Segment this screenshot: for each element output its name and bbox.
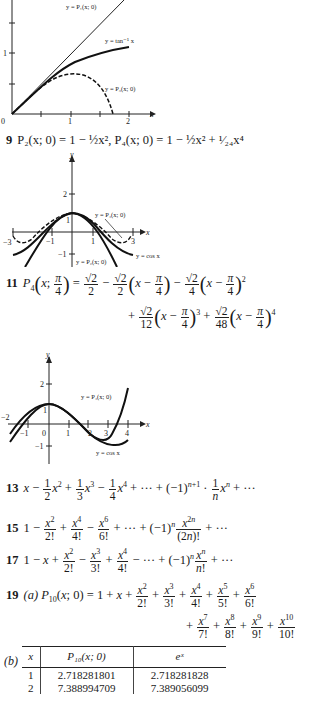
table-row: 2 7.388994709 7.389056099: [22, 681, 226, 694]
header-p10: P₁₀(x; 0): [40, 647, 133, 668]
x-axis-label: x: [145, 228, 150, 237]
header-x: x: [22, 647, 40, 668]
table-row: 1 2.718281801 2.718281828: [22, 668, 226, 682]
y-axis-label: y: [69, 152, 74, 159]
label-arctan: y = tan⁻¹ x: [105, 37, 135, 44]
tick-y-1: 1: [3, 49, 7, 58]
problem-17: 171 − x + x22! − x33! + x44! − ··· + (−1…: [6, 548, 233, 574]
problem-13: 13x − 12x2 + 13x3 − 14x4 + ··· + (−1)n+1…: [6, 477, 256, 502]
problem-number: 15: [6, 521, 19, 535]
problem-number: 9: [6, 133, 12, 147]
tick-x-1: 1: [66, 429, 70, 438]
tick-x-minus3: −3: [3, 238, 12, 247]
tick-x-3: 3: [104, 429, 108, 438]
problem-number: 11: [6, 276, 18, 290]
label-cos: y = cos x: [96, 449, 120, 456]
tick-x-1: 1: [91, 237, 95, 246]
label-p2: y = P₂(x; 0): [76, 258, 106, 266]
tick-x-3: 3: [131, 237, 135, 246]
part-b-label: (b): [4, 654, 18, 669]
tick-x-minus1: −1: [20, 429, 29, 438]
label-cos: y = cos x: [136, 252, 160, 259]
header-ex: eˣ: [133, 647, 226, 668]
label-p1: y = P₁(x; 0): [66, 3, 96, 11]
x-axis-label: x: [149, 110, 154, 119]
problem-9-answer: P₂(x; 0) = 1 − ½x², P₄(x; 0) = 1 − ½x² +…: [17, 133, 244, 147]
tick-x-minus1: −1: [46, 237, 55, 246]
problem-11-cont: + √212(x − π4)3 + √248(x − π4)4: [128, 305, 276, 330]
problem-9: 9P₂(x; 0) = 1 − ½x², P₄(x; 0) = 1 − ½x² …: [6, 133, 244, 148]
label-p4: y = P₄(x; 0): [81, 393, 111, 401]
tick-x-4: 4: [125, 429, 129, 438]
tick-y-minus1: −1: [58, 250, 67, 259]
problem-15: 151 − x22! + x44! − x66! + ··· + (−1)nx2…: [6, 516, 228, 542]
tick-y-1: 1: [43, 406, 47, 415]
problem-19a: 19(a) P10(x; 0) = 1 + x + x22! + x33! + …: [6, 583, 257, 609]
tick-y-minus1: −1: [35, 442, 44, 451]
tick-y-1: 1: [66, 216, 70, 225]
tick-x-1: 1: [68, 117, 72, 125]
tick-y-2: 2: [40, 380, 44, 389]
part-a-label: (a): [24, 588, 39, 602]
tick-x-2: 2: [88, 429, 92, 438]
tick-y-2: 2: [63, 190, 67, 199]
comparison-table: x P₁₀(x; 0) eˣ 1 2.718281801 2.718281828…: [22, 646, 226, 694]
problem-11: 11P4(x; π4) = √22 − √22(x − π4) − √24(x …: [6, 272, 246, 297]
x-axis-label: x: [145, 420, 150, 429]
problem-number: 13: [6, 481, 19, 495]
y-axis-label: y: [45, 352, 50, 359]
graph-cos-taylor-9: 2 1 −1 −3 −1 1 3 x y y = P₄(x; 0) y = co…: [0, 152, 170, 267]
tick-x-0: 0: [42, 429, 46, 438]
label-p4: y = P₄(x; 0): [95, 211, 125, 219]
problem-number: 19: [6, 588, 19, 602]
label-p3: y = P₃(x; 0): [105, 85, 135, 93]
graph-cos-taylor-11: 2 1 −1 −2 −1 0 1 2 3 4 x y y = P₄(x; 0) …: [0, 352, 180, 464]
graph-arctan-taylor: 1 0 1 2 x y = P₁(x; 0) y = tan⁻¹ x y = P…: [0, 0, 200, 125]
tick-x-0: 0: [1, 117, 5, 125]
problem-number: 17: [6, 553, 19, 567]
tick-x-minus2: −2: [1, 413, 10, 422]
tick-x-2: 2: [126, 117, 130, 125]
problem-19a-cont: + x77! + x88! + x99! + x1010!: [186, 614, 296, 640]
